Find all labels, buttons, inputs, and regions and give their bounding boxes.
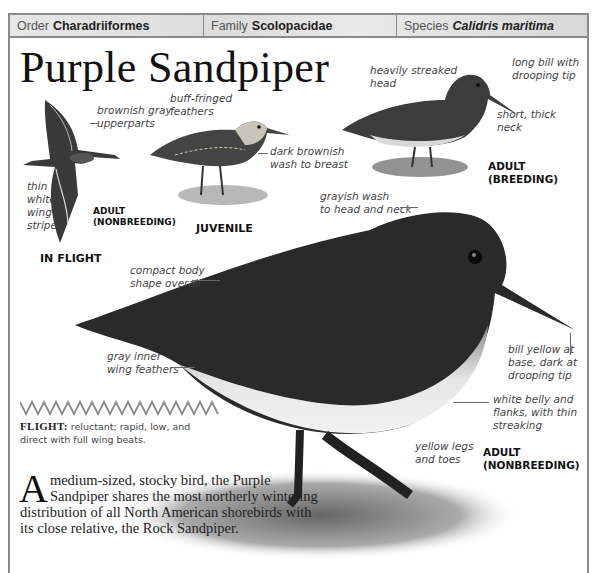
annotation-heavily-streaked-head: heavily streaked head xyxy=(370,64,457,90)
annotation-buff-fringed-feathers: buff-fringed feathers xyxy=(170,92,232,118)
annotation-compact-body-shape: compact body shape overall xyxy=(130,264,205,290)
taxonomy-bar: Order Charadriiformes Family Scolopacida… xyxy=(8,13,589,38)
caption-adult-nonbreeding: ADULT (NONBREEDING) xyxy=(483,446,580,472)
annotation-gray-inner-wing-feathers: gray inner wing feathers xyxy=(107,350,179,376)
annotation-dark-brownish-wash: dark brownish wash to breast xyxy=(270,145,348,171)
drop-cap: A xyxy=(19,474,48,504)
annotation-thin-white-wing-stripe: thin white wing stripe xyxy=(27,180,57,232)
annotation-long-bill-drooping-tip: long bill with drooping tip xyxy=(512,56,579,82)
taxonomy-family: Family Scolopacidae xyxy=(204,15,397,36)
species-description: Amedium-sized, stocky bird, the Purple S… xyxy=(20,472,320,536)
flight-description: FLIGHT: reluctant; rapid, low, and direc… xyxy=(20,420,220,446)
annotation-yellow-legs-toes: yellow legs and toes xyxy=(415,440,473,466)
annotation-grayish-wash-head-neck: grayish wash to head and neck xyxy=(320,190,412,216)
annotation-short-thick-neck: short, thick neck xyxy=(497,108,556,134)
flight-pattern-zigzag-icon xyxy=(20,400,220,416)
taxonomy-order: Order Charadriiformes xyxy=(10,15,204,36)
annotation-bill-yellow-base: bill yellow at base, dark at drooping ti… xyxy=(508,343,577,382)
caption-adult-breeding: ADULT (BREEDING) xyxy=(488,160,558,186)
page-title: Purple Sandpiper xyxy=(20,46,329,90)
taxonomy-species: Species Calidris maritima xyxy=(397,15,587,36)
annotation-white-belly-flanks: white belly and flanks, with thin streak… xyxy=(493,393,577,432)
